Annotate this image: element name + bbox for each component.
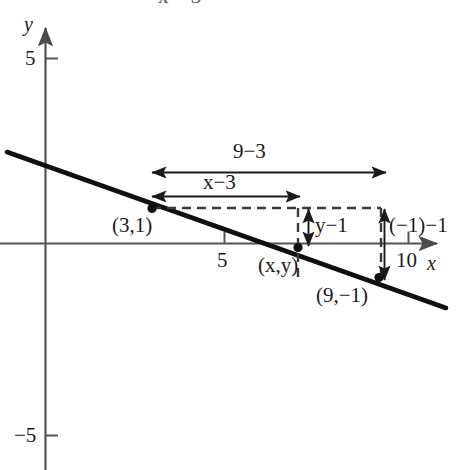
point-3-1 xyxy=(147,204,156,213)
point-9-neg1 xyxy=(374,273,383,282)
point-label-x-y: (x,y) xyxy=(258,255,298,276)
point-label-9-neg1: (9,−1) xyxy=(316,285,368,306)
x-tick-label-10: 10 xyxy=(396,250,417,271)
y-axis-label: y xyxy=(24,14,33,34)
x-tick-label-5: 5 xyxy=(217,250,228,271)
clipped-top-fragment: x − 3 xyxy=(158,0,201,7)
point-x-y xyxy=(293,243,302,252)
run-partial-label: x−3 xyxy=(203,172,236,193)
y-axis xyxy=(46,28,59,470)
x-axis xyxy=(0,232,437,244)
rise-partial-label: y−1 xyxy=(315,215,348,236)
point-label-3-1: (3,1) xyxy=(112,215,152,236)
slope-diagram: x − 3 y x 5 −5 5 10 (3,1) (x,y) (9,−1) 9… xyxy=(0,0,458,470)
y-tick-label-neg5: −5 xyxy=(14,425,36,446)
y-tick-label-5: 5 xyxy=(25,48,36,69)
rise-total-label: (−1)−1 xyxy=(389,215,448,236)
run-total-label: 9−3 xyxy=(233,141,266,162)
x-axis-label: x xyxy=(427,253,436,273)
